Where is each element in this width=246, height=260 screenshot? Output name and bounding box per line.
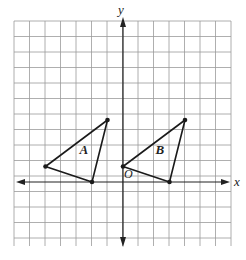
triangle-a-label: A [79, 142, 89, 157]
vertex-dot [105, 118, 110, 123]
coordinate-plane: x y O A B [0, 0, 246, 260]
triangles: A B [43, 118, 187, 185]
vertex-dot [43, 164, 48, 169]
triangle-b-label: B [155, 142, 165, 157]
vertex-dot [167, 180, 172, 185]
vertex-dot [90, 180, 95, 185]
y-axis-arrow-down-icon [120, 237, 126, 247]
y-axis-arrow-up-icon [120, 17, 126, 27]
axes: x y O [16, 2, 240, 247]
vertex-dot [183, 118, 188, 123]
x-axis-label: x [233, 174, 240, 189]
x-axis-arrow-left-icon [16, 179, 25, 185]
x-axis-arrow-right-icon [221, 179, 230, 185]
vertex-dot [121, 164, 126, 169]
y-axis-label: y [116, 2, 124, 17]
